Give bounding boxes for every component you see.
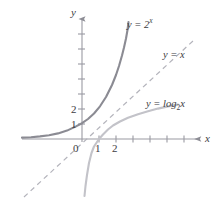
curve-label-logarithm: y = log2x: [146, 99, 185, 112]
y-tick-label-2: 2: [71, 104, 77, 115]
curve-label-exponential-prefix: y = 2: [127, 19, 149, 30]
curve-label-logarithm-prefix: y = log: [146, 98, 176, 109]
x-tick-label-1: 1: [95, 143, 101, 154]
curve-label-identity-text: y = x: [163, 49, 185, 60]
origin-label: 0: [73, 143, 79, 154]
curve-label-exponential-exponent: x: [149, 16, 152, 25]
x-tick-label-2: 2: [112, 143, 118, 154]
graph-figure: y x 0 1 2 1 2 y = 2x y = x y = log2x: [0, 0, 220, 204]
curve-label-logarithm-suffix: x: [180, 98, 185, 109]
identity-line-y-equals-x: [24, 40, 194, 197]
curve-label-exponential: y = 2x: [127, 17, 153, 30]
plot-canvas: [0, 0, 220, 204]
x-axis-label: x: [205, 133, 210, 144]
y-axis-label: y: [71, 7, 76, 18]
y-tick-label-1: 1: [71, 119, 77, 130]
curve-label-identity: y = x: [163, 50, 185, 61]
